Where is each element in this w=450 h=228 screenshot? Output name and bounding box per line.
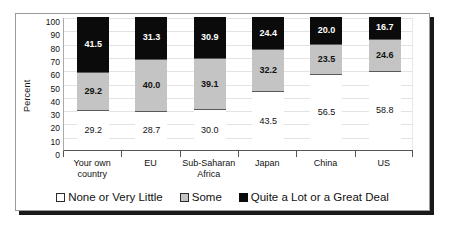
bar-segment[interactable]: 58.8 bbox=[369, 72, 401, 150]
bar-value-label: 23.5 bbox=[318, 55, 336, 64]
x-axis-category-label-line: Sub-Saharan bbox=[180, 158, 238, 169]
x-axis-tick bbox=[121, 151, 122, 157]
bar-segment[interactable]: 30.0 bbox=[194, 110, 226, 150]
bar-value-label: 29.2 bbox=[84, 126, 102, 135]
bar-group: 56.523.520.0 bbox=[297, 18, 355, 150]
bar-value-label: 32.2 bbox=[259, 66, 277, 75]
x-axis-ticks bbox=[63, 151, 413, 157]
stacked-bar[interactable]: 58.824.616.7 bbox=[369, 18, 401, 150]
x-axis-tick bbox=[296, 151, 297, 157]
y-axis-tick-label: 80 bbox=[34, 45, 60, 53]
x-axis-tick bbox=[355, 151, 356, 157]
plot-area: 29.229.241.528.740.031.330.039.130.943.5… bbox=[63, 18, 413, 151]
bar-value-label: 16.7 bbox=[376, 23, 394, 32]
bar-value-label: 30.9 bbox=[201, 33, 219, 42]
bar-segment[interactable]: 16.7 bbox=[369, 17, 401, 39]
bar-value-label: 41.5 bbox=[84, 40, 102, 49]
stacked-bar[interactable]: 29.229.241.5 bbox=[77, 18, 109, 150]
bar-segment[interactable]: 29.2 bbox=[77, 72, 109, 111]
x-axis-category-label-line: China bbox=[296, 158, 354, 169]
x-axis-tick bbox=[180, 151, 181, 157]
x-axis-category-label: US bbox=[355, 158, 413, 169]
legend-label: None or Very Little bbox=[68, 191, 163, 203]
bar-segment[interactable]: 20.0 bbox=[310, 17, 342, 44]
bar-value-label: 30.0 bbox=[201, 126, 219, 135]
bar-value-label: 39.1 bbox=[201, 80, 219, 89]
bar-segment[interactable]: 23.5 bbox=[310, 44, 342, 75]
bar-segment[interactable]: 30.9 bbox=[194, 17, 226, 58]
bar-value-label: 28.7 bbox=[143, 126, 161, 135]
bar-segment[interactable]: 28.7 bbox=[135, 112, 167, 150]
x-axis-category-label: EU bbox=[121, 158, 179, 169]
bar-value-label: 43.5 bbox=[259, 117, 277, 126]
x-axis-category-label-line: country bbox=[63, 169, 121, 180]
y-axis-tick-label: 60 bbox=[34, 71, 60, 79]
x-axis-category-label-line: EU bbox=[121, 158, 179, 169]
legend-swatch-lot bbox=[239, 193, 248, 202]
y-axis-tick-label: 100 bbox=[34, 18, 60, 26]
bar-segment[interactable]: 40.0 bbox=[135, 59, 167, 112]
bar-segment[interactable]: 24.6 bbox=[369, 39, 401, 72]
y-axis-tick-label: 50 bbox=[34, 85, 60, 93]
bar-segment[interactable]: 29.2 bbox=[77, 111, 109, 150]
legend-swatch-some bbox=[180, 193, 189, 202]
bar-value-label: 24.4 bbox=[259, 29, 277, 38]
bar-value-label: 29.2 bbox=[84, 87, 102, 96]
x-axis-category-label: Your owncountry bbox=[63, 158, 121, 180]
bar-value-label: 20.0 bbox=[318, 26, 336, 35]
bar-group: 28.740.031.3 bbox=[122, 18, 180, 150]
y-axis-tick-label: 90 bbox=[34, 31, 60, 39]
legend-swatch-none bbox=[56, 193, 65, 202]
x-axis-category-label: Sub-SaharanAfrica bbox=[180, 158, 238, 180]
y-axis-tick-label: 0 bbox=[34, 151, 60, 159]
x-axis-category-label: Japan bbox=[238, 158, 296, 169]
bar-segment[interactable]: 32.2 bbox=[252, 49, 284, 92]
x-axis-category-label-line: US bbox=[355, 158, 413, 169]
bar-value-label: 24.6 bbox=[376, 51, 394, 60]
bar-group: 30.039.130.9 bbox=[181, 18, 239, 150]
y-axis-tick-label: 30 bbox=[34, 111, 60, 119]
bar-group: 29.229.241.5 bbox=[64, 18, 122, 150]
legend-item[interactable]: Quite a Lot or a Great Deal bbox=[239, 191, 389, 203]
stacked-bar[interactable]: 28.740.031.3 bbox=[135, 18, 167, 150]
bar-value-label: 56.5 bbox=[318, 108, 336, 117]
bar-value-label: 31.3 bbox=[143, 33, 161, 42]
y-axis-tick-label: 70 bbox=[34, 58, 60, 66]
bar-group: 58.824.616.7 bbox=[356, 18, 414, 150]
legend-label: Some bbox=[192, 191, 222, 203]
y-axis-tick-labels: 1009080706050403020100 bbox=[34, 18, 60, 151]
stacked-bar[interactable]: 30.039.130.9 bbox=[194, 18, 226, 150]
x-axis-tick bbox=[412, 151, 413, 157]
bar-segment[interactable]: 56.5 bbox=[310, 75, 342, 150]
bar-segment[interactable]: 24.4 bbox=[252, 17, 284, 49]
legend-item[interactable]: Some bbox=[180, 191, 222, 203]
bar-value-label: 40.0 bbox=[143, 81, 161, 90]
bar-value-label: 58.8 bbox=[376, 106, 394, 115]
stacked-bar[interactable]: 43.532.224.4 bbox=[252, 18, 284, 150]
x-axis-category-label-line: Your own bbox=[63, 158, 121, 169]
x-axis-category-labels: Your owncountryEUSub-SaharanAfricaJapanC… bbox=[63, 158, 413, 184]
legend-label: Quite a Lot or a Great Deal bbox=[251, 191, 389, 203]
x-axis-category-label-line: Africa bbox=[180, 169, 238, 180]
stacked-bar[interactable]: 56.523.520.0 bbox=[310, 18, 342, 150]
x-axis-category-label: China bbox=[296, 158, 354, 169]
bar-segment[interactable]: 31.3 bbox=[135, 17, 167, 59]
x-axis-category-label-line: Japan bbox=[238, 158, 296, 169]
chart-figure: Percent 1009080706050403020100 29.229.24… bbox=[0, 0, 450, 228]
plot-wrapper: Percent 1009080706050403020100 29.229.24… bbox=[16, 14, 429, 210]
x-axis-tick bbox=[238, 151, 239, 157]
y-axis-tick-label: 20 bbox=[34, 124, 60, 132]
x-axis-tick bbox=[63, 151, 64, 157]
y-axis-tick-label: 40 bbox=[34, 98, 60, 106]
bar-group: 43.532.224.4 bbox=[239, 18, 297, 150]
bar-segment[interactable]: 43.5 bbox=[252, 92, 284, 150]
legend-item[interactable]: None or Very Little bbox=[56, 191, 163, 203]
chart-legend: None or Very LittleSomeQuite a Lot or a … bbox=[16, 186, 429, 208]
bar-segment[interactable]: 39.1 bbox=[194, 58, 226, 110]
y-axis-tick-label: 10 bbox=[34, 138, 60, 146]
bar-segment[interactable]: 41.5 bbox=[77, 17, 109, 72]
chart-frame: Percent 1009080706050403020100 29.229.24… bbox=[15, 13, 430, 211]
